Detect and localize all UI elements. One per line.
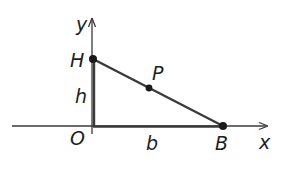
point-P-label: P [152, 62, 164, 84]
height-label: h [75, 85, 87, 107]
point-H [89, 55, 97, 63]
point-B [219, 122, 227, 130]
point-H-label: H [70, 49, 84, 71]
y-axis-label: y [75, 13, 88, 35]
origin-label: O [70, 127, 85, 149]
point-P [146, 85, 153, 92]
base-label: b [146, 132, 158, 154]
point-B-label: B [215, 132, 228, 154]
triangle-diagram: y x H P B O h b [0, 0, 287, 170]
x-axis-label: x [258, 131, 271, 153]
